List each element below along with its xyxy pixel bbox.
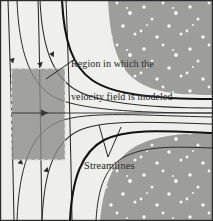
flow-diagram: Region in which the velocity field is mo… [0,0,213,221]
label-modeled-region-line2: velocity field is modeled [71,91,173,102]
label-modeled-region-line1: Region in which the [71,58,173,69]
label-streamlines: Streamlines [84,160,135,171]
label-modeled-region: Region in which the velocity field is mo… [71,36,173,124]
modeled-region-box[interactable] [12,69,66,161]
